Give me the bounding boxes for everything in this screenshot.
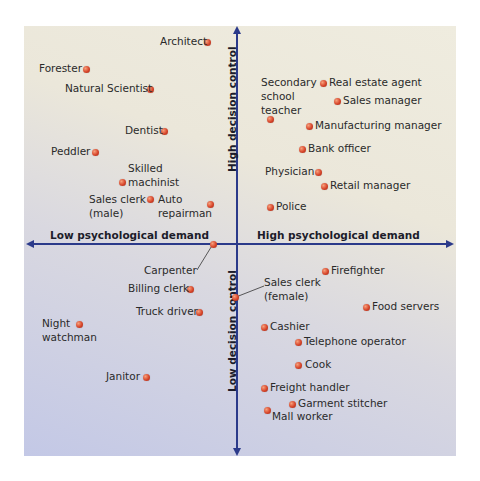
point-label: Carpenter (144, 264, 197, 277)
point-label: Freight handler (270, 381, 350, 394)
point-label: Auto (158, 193, 182, 206)
data-point-retail-manager (321, 183, 328, 190)
data-point-food-servers (363, 304, 370, 311)
data-point-night-watchman (76, 321, 83, 328)
point-label: Secondary (261, 76, 317, 89)
point-label: Natural Scientist (65, 82, 152, 95)
point-label: (female) (264, 290, 308, 303)
point-label: machinist (128, 176, 179, 189)
point-label: Billing clerk (128, 282, 189, 295)
point-label: Sales clerk (89, 193, 146, 206)
data-point-forester (83, 66, 90, 73)
point-label: Sales manager (343, 94, 421, 107)
point-label: Real estate agent (329, 76, 422, 89)
data-point-carpenter (210, 241, 217, 248)
point-label: school (261, 90, 295, 103)
x-axis-line (28, 243, 452, 245)
point-label: Architect (160, 35, 207, 48)
arrow-left-icon (26, 240, 34, 248)
point-label: Skilled (128, 162, 163, 175)
point-label: Physician (265, 165, 314, 178)
point-label: Retail manager (330, 179, 410, 192)
data-point-real-estate-agent (320, 80, 327, 87)
point-label: Bank officer (308, 142, 371, 155)
data-point-cashier (261, 324, 268, 331)
point-label: Cook (305, 358, 331, 371)
point-label: teacher (261, 104, 301, 117)
data-point-telephone-operator (295, 339, 302, 346)
data-point-police (267, 204, 274, 211)
y-axis-label-low: Low decision control (226, 270, 238, 392)
data-point-peddler (92, 149, 99, 156)
point-label: Garment stitcher (298, 397, 387, 410)
data-point-manufacturing-manager (306, 123, 313, 130)
arrow-down-icon (233, 448, 241, 456)
point-label: Truck driver (136, 305, 198, 318)
x-axis-label-low: Low psychological demand (50, 229, 209, 241)
point-label: Mall worker (272, 410, 332, 423)
point-label: repairman (158, 207, 212, 220)
point-label: Telephone operator (304, 335, 406, 348)
point-label: Police (276, 200, 306, 213)
point-label: (male) (89, 207, 123, 220)
point-label: Forester (39, 62, 82, 75)
chart-panel: Low psychological demand High psychologi… (24, 26, 456, 456)
data-point-secondary-school-teacher (267, 116, 274, 123)
point-label: Night (42, 317, 70, 330)
data-point-mall-worker (264, 407, 271, 414)
point-label: watchman (42, 331, 97, 344)
data-point-janitor (143, 374, 150, 381)
data-point-physician (315, 169, 322, 176)
point-label: Food servers (372, 300, 439, 313)
x-axis-label-high: High psychological demand (257, 229, 420, 241)
y-axis-label-high: High decision control (226, 46, 238, 172)
data-point-freight-handler (261, 385, 268, 392)
data-point-sales-manager (334, 98, 341, 105)
point-label: Peddler (51, 145, 90, 158)
point-label: Cashier (270, 320, 310, 333)
data-point-skilled-machinist (119, 179, 126, 186)
point-label: Firefighter (331, 264, 385, 277)
point-label: Dentist (125, 124, 163, 137)
point-label: Janitor (106, 370, 140, 383)
data-point-firefighter (322, 268, 329, 275)
data-point-sales-clerk-female (232, 294, 239, 301)
data-point-cook (295, 362, 302, 369)
data-point-garment-stitcher (289, 401, 296, 408)
point-label: Manufacturing manager (315, 119, 442, 132)
data-point-bank-officer (299, 146, 306, 153)
arrow-right-icon (446, 240, 454, 248)
arrow-up-icon (233, 26, 241, 34)
point-label: Sales clerk (264, 276, 321, 289)
data-point-sales-clerk-male (147, 196, 154, 203)
